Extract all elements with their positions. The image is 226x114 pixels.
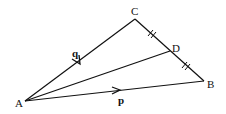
segment-CB [135,19,204,81]
label-vector-p: p [118,94,124,106]
label-A: A [15,97,23,109]
triangle-diagram: C D B A q p [0,0,226,114]
equal-mark-DB-icon [182,62,190,70]
segment-AB [25,81,204,101]
label-B: B [207,78,214,90]
label-D: D [172,42,180,54]
label-C: C [131,5,138,17]
label-vector-q: q [72,47,79,59]
